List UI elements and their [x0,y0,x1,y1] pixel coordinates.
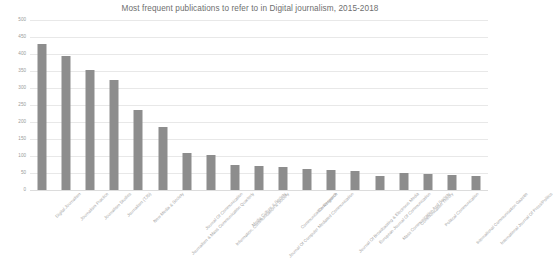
x-axis-tick-label: Journal Of Computer Mediated Communicati… [288,192,355,259]
bar[interactable] [230,165,239,191]
bar[interactable] [327,170,336,190]
bar[interactable] [158,127,167,190]
gridline [30,190,488,191]
bar[interactable] [399,173,408,190]
y-axis-tick-label: 200 [4,120,26,125]
x-axis-tick-label: New Media & Society [153,192,185,224]
x-axis-tick-label: Media Culture & Society [251,192,287,228]
bar[interactable] [182,153,191,190]
y-axis-tick-label: 0 [4,188,26,193]
x-axis-tick-label: Journal Of Broadcasting & Electronic Med… [359,192,421,254]
bar[interactable] [471,176,480,190]
bar[interactable] [206,155,215,190]
bar[interactable] [279,167,288,190]
bar[interactable] [254,166,263,190]
bar[interactable] [375,176,384,190]
x-axis-tick-label: International Journal Of Press/Politics [500,192,554,246]
bar[interactable] [351,171,360,190]
bar[interactable] [447,175,456,190]
bar[interactable] [86,70,95,190]
bar[interactable] [110,80,119,191]
bar[interactable] [423,174,432,190]
y-axis-tick-label: 50 [4,171,26,176]
x-axis: Digital JournalismJournalism PracticeJou… [0,0,500,88]
x-axis-tick-label: Digital Journalism [55,192,82,219]
y-axis-tick-label: 250 [4,103,26,108]
bar[interactable] [303,169,312,190]
x-axis-tick-label: Journalism & Mass Communication Quarterl… [191,192,255,256]
y-axis-tick-label: 150 [4,137,26,142]
bar[interactable] [134,110,143,190]
y-axis-tick-label: 100 [4,154,26,159]
